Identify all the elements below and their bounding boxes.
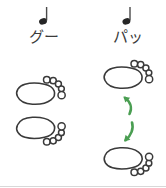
quarter-note-icon-left: [38, 7, 48, 26]
toe-5-left-bottom: [58, 123, 65, 130]
foot-sole-left-bottom: [17, 117, 55, 138]
foot-rhythm-diagram: グー パッ: [0, 0, 166, 188]
quarter-note-icon-right: [122, 7, 132, 26]
toe-4-right-top: [146, 70, 152, 76]
foot-sole-right-top: [104, 67, 142, 88]
toe-5-left-top: [58, 92, 65, 99]
toe-4-left-top: [59, 86, 65, 92]
toe-1-left-bottom: [44, 138, 51, 145]
foot-right-top: [104, 61, 153, 89]
foot-left-bottom: [17, 117, 66, 145]
arrow-up-icon: [123, 97, 130, 115]
toe-4-right-bottom: [146, 160, 152, 166]
foot-left-top: [17, 77, 66, 105]
toe-4-left-bottom: [59, 130, 65, 136]
toe-5-right-bottom: [146, 153, 153, 160]
toe-1-right-bottom: [131, 169, 138, 176]
foot-sole-right-bottom: [104, 148, 142, 169]
arrow-down-icon: [124, 123, 133, 142]
toe-1-left-top: [44, 77, 51, 84]
foot-right-bottom: [104, 148, 153, 176]
toe-5-right-top: [146, 76, 153, 83]
diagram-canvas: [0, 0, 166, 188]
toe-1-right-top: [131, 61, 138, 68]
foot-sole-left-top: [17, 83, 55, 104]
